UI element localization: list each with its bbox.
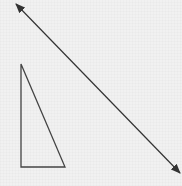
right-triangle bbox=[21, 64, 65, 167]
double-arrow-line bbox=[16, 4, 180, 173]
diagram-canvas bbox=[0, 0, 182, 186]
geometry-figure bbox=[0, 0, 182, 186]
